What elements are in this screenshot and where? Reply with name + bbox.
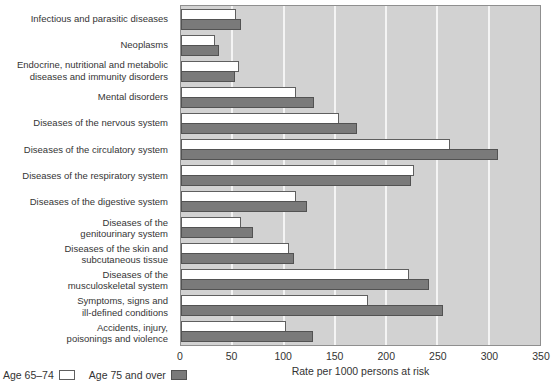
bar-age-75-over xyxy=(181,227,253,238)
category-label: Diseases of the musculoskeletal system xyxy=(0,267,174,293)
bar-age-75-over xyxy=(181,97,314,108)
bar-row xyxy=(181,136,540,162)
x-tick-label: 50 xyxy=(226,350,238,362)
bar-age-75-over xyxy=(181,71,235,82)
bar-rows xyxy=(181,6,540,345)
legend-label-age-75-over: Age 75 and over xyxy=(89,369,166,381)
category-labels-column: Infectious and parasitic diseasesNeoplas… xyxy=(0,5,174,346)
bar-age-75-over xyxy=(181,305,443,316)
bar-chart-figure: Infectious and parasitic diseasesNeoplas… xyxy=(0,0,556,388)
x-tick-label: 100 xyxy=(274,350,292,362)
plot-area xyxy=(180,5,541,346)
category-label: Symptoms, signs and ill-defined conditio… xyxy=(0,294,174,320)
bar-age-75-over xyxy=(181,201,307,212)
category-label: Diseases of the circulatory system xyxy=(0,136,174,162)
x-tick-label: 350 xyxy=(532,350,550,362)
x-tick-label: 300 xyxy=(481,350,499,362)
bar-row xyxy=(181,58,540,84)
bar-row xyxy=(181,319,540,345)
legend-label-age-65-74: Age 65–74 xyxy=(3,369,54,381)
category-label: Diseases of the digestive system xyxy=(0,189,174,215)
x-tick-label: 150 xyxy=(326,350,344,362)
x-tick-label: 0 xyxy=(177,350,183,362)
bar-row xyxy=(181,84,540,110)
bar-age-75-over xyxy=(181,253,294,264)
x-axis-title: Rate per 1000 persons at risk xyxy=(180,365,541,377)
bar-age-75-over xyxy=(181,279,429,290)
bar-age-75-over xyxy=(181,19,241,30)
bar-row xyxy=(181,267,540,293)
bar-age-75-over xyxy=(181,175,411,186)
bar-row xyxy=(181,110,540,136)
x-tick-label: 250 xyxy=(429,350,447,362)
bar-age-75-over xyxy=(181,123,357,134)
bar-row xyxy=(181,6,540,32)
legend-swatch-age-65-74 xyxy=(59,370,75,380)
category-label: Endocrine, nutritional and metabolic dis… xyxy=(0,57,174,83)
legend-swatch-age-75-over xyxy=(171,370,187,380)
x-axis-tick-labels: 050100150200250300350 xyxy=(180,350,541,362)
bar-age-75-over xyxy=(181,45,219,56)
category-label: Diseases of the genitourinary system xyxy=(0,215,174,241)
category-label: Accidents, injury, poisonings and violen… xyxy=(0,320,174,346)
category-label: Neoplasms xyxy=(0,31,174,57)
bar-row xyxy=(181,32,540,58)
bar-age-75-over xyxy=(181,149,498,160)
category-label: Infectious and parasitic diseases xyxy=(0,5,174,31)
bar-age-75-over xyxy=(181,331,313,342)
bar-row xyxy=(181,189,540,215)
category-label: Diseases of the respiratory system xyxy=(0,162,174,188)
category-label: Mental disorders xyxy=(0,84,174,110)
bar-row xyxy=(181,215,540,241)
bar-row xyxy=(181,293,540,319)
bar-row xyxy=(181,162,540,188)
bar-row xyxy=(181,241,540,267)
legend: Age 65–74 Age 75 and over xyxy=(3,369,201,381)
category-label: Diseases of the skin and subcutaneous ti… xyxy=(0,241,174,267)
x-tick-label: 200 xyxy=(378,350,396,362)
category-label: Diseases of the nervous system xyxy=(0,110,174,136)
